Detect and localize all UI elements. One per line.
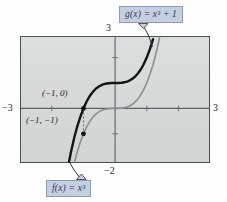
label-box-g-function: g(x) = x³ + 1: [119, 6, 183, 23]
leader-line-f: [70, 163, 81, 179]
leader-flag-g: [139, 24, 149, 29]
point-label-upper: (−1, 0): [42, 88, 68, 98]
axis-label-x-max: 3: [213, 102, 218, 113]
axes-group: [20, 36, 210, 163]
point-marker-lower: [81, 131, 86, 136]
axis-label-x-min: −3: [2, 102, 13, 113]
axis-label-y-min: −2: [104, 165, 115, 176]
figure-container: g(x) = x³ + 1 f(x) = x³ −3 3 3 −2 (−1, 0…: [0, 0, 227, 202]
point-marker-upper: [81, 106, 86, 111]
point-label-lower: (−1, −1): [26, 115, 58, 125]
label-box-f-function: f(x) = x³: [46, 180, 91, 197]
axis-label-y-max: 3: [106, 22, 111, 33]
